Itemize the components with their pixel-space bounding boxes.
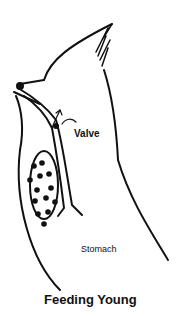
stomach-label: Stomach: [81, 244, 117, 254]
beak-tip: [16, 82, 24, 90]
valve-arrow: [62, 119, 76, 124]
bird-crop-illustration: [0, 0, 183, 316]
valve-dot: [53, 123, 59, 129]
esophagus-outer: [18, 88, 82, 215]
head-outline: [44, 24, 112, 80]
throat-outline: [16, 96, 22, 150]
chest-outline: [19, 150, 60, 290]
valve-label: Valve: [74, 128, 100, 139]
diagram-title: Feeding Young: [44, 292, 137, 307]
diagram-canvas: Valve Stomach Feeding Young: [0, 0, 183, 316]
back-outline: [104, 70, 168, 260]
